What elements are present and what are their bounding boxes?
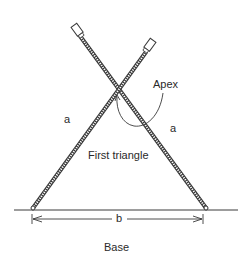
diagram-canvas: Apex a a First triangle b Base [0, 0, 251, 269]
rod-left-to-right [71, 23, 208, 210]
rod-cap-right [142, 38, 156, 53]
base-label: Base [104, 242, 129, 253]
side-a-right-label: a [170, 123, 176, 134]
first-triangle-label: First triangle [88, 150, 149, 161]
base-dimension-label: b [116, 213, 122, 224]
side-a-left-label: a [64, 114, 70, 125]
apex-label: Apex [153, 79, 178, 90]
diagram-graphics [0, 0, 251, 269]
rod-cap-left [71, 23, 85, 38]
rod-right-to-left [31, 38, 156, 210]
